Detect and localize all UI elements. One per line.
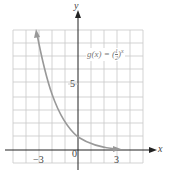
tick-label-3: 3 (114, 154, 119, 165)
eq-prefix: g(x) = ( (87, 49, 115, 59)
tick-label-0: 0 (72, 148, 77, 159)
x-axis-arrow-icon (149, 147, 157, 153)
x-axis-label: x (158, 143, 162, 154)
function-label: g(x) = (12)x (86, 48, 125, 61)
tick-label-5: 5 (70, 78, 75, 89)
y-axis-arrow-icon (75, 10, 81, 18)
eq-exponent: x (121, 48, 124, 54)
graph-canvas (0, 0, 169, 177)
tick-label-neg3: −3 (33, 154, 44, 165)
y-axis-label: y (74, 0, 78, 11)
